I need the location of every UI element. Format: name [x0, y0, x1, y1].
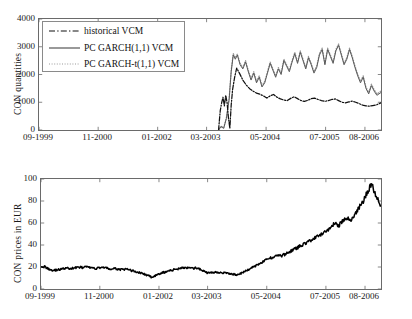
legend-sample-dotted	[48, 56, 81, 72]
legend-sample-solid	[48, 40, 81, 56]
bottom-panel-xtick: 11-2000	[84, 291, 114, 301]
bottom-panel-xtick: 08-2006	[349, 291, 379, 301]
legend-label-garch: PC GARCH(1,1) VCM	[84, 40, 173, 56]
legend-sample-dashdot	[48, 23, 81, 39]
bottom-panel-xtick: 01-2002	[143, 291, 173, 301]
top-panel-ytick: 3000	[2, 41, 35, 51]
top-panel-xtick: 08-2006	[349, 132, 379, 142]
bottom-panel-ytick: 20	[4, 261, 37, 271]
top-panel-xtick: 11-2000	[82, 132, 112, 142]
bottom-panel-plot	[41, 179, 381, 289]
bottom-panel-ytick: 80	[4, 195, 37, 205]
top-panel-ytick: 2000	[2, 69, 35, 79]
bottom-panel-frame	[40, 178, 382, 290]
bottom-panel-ytick: 60	[4, 217, 37, 227]
top-panel-ytick: 1000	[2, 96, 35, 106]
top-panel-ytick: 4000	[2, 13, 35, 23]
bottom-panel-xtick: 05-2004	[251, 291, 281, 301]
top-panel-xtick: 09-1999	[23, 132, 53, 142]
top-panel-xtick: 03-2003	[191, 132, 221, 142]
legend-row-historical: historical VCM	[43, 23, 184, 39]
bottom-panel-xtick: 07-2005	[310, 291, 340, 301]
bottom-panel-ytick: 40	[4, 239, 37, 249]
legend-box: historical VCM PC GARCH(1,1) VCM PC GARC…	[42, 21, 185, 72]
legend-label-garch-t: PC GARCH-t(1,1) VCM	[84, 56, 179, 72]
legend-label-historical: historical VCM	[84, 23, 143, 39]
figure-root: CON quantities 01000200030004000 09-1999…	[0, 0, 412, 319]
top-panel-xtick: 05-2004	[250, 132, 280, 142]
bottom-panel-xtick: 03-2003	[192, 291, 222, 301]
top-panel-xtick: 01-2002	[142, 132, 172, 142]
top-panel-xtick: 07-2005	[310, 132, 340, 142]
legend-row-garch: PC GARCH(1,1) VCM	[43, 40, 184, 56]
bottom-panel-ytick: 100	[4, 173, 37, 183]
bottom-panel-xtick: 09-1999	[25, 291, 55, 301]
legend-row-garch-t: PC GARCH-t(1,1) VCM	[43, 56, 184, 72]
